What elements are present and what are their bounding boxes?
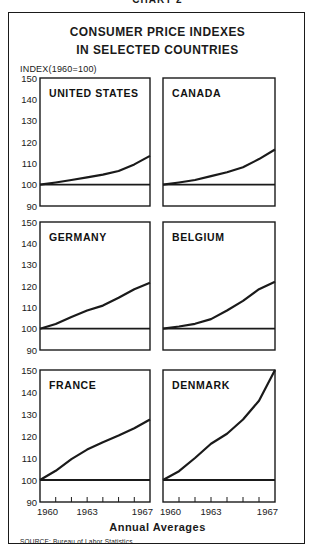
y-tick-label: 100 xyxy=(21,323,37,334)
y-tick-label: 90 xyxy=(26,497,37,508)
y-tick-label: 100 xyxy=(21,475,37,486)
y-tick-label: 140 xyxy=(21,387,37,398)
y-tick-label: 100 xyxy=(21,179,37,190)
cpi-line xyxy=(40,156,150,185)
y-tick-label: 130 xyxy=(21,409,37,420)
y-tick-label: 90 xyxy=(26,345,37,356)
cpi-line xyxy=(163,282,275,329)
y-tick-label: 150 xyxy=(21,217,37,228)
x-tick-label: 1960 xyxy=(160,506,181,517)
y-tick-label: 150 xyxy=(21,365,37,376)
y-tick-label: 110 xyxy=(22,158,37,169)
y-tick-label: 110 xyxy=(22,302,37,313)
panel-country-label: UNITED STATES xyxy=(49,87,139,99)
y-tick-label: 150 xyxy=(21,73,37,84)
panel-country-label: DENMARK xyxy=(172,379,230,391)
panel-denmark: DENMARK196019631967 xyxy=(160,370,278,517)
x-tick-label: 1967 xyxy=(132,506,153,517)
y-tick-label: 140 xyxy=(21,238,37,249)
cpi-line xyxy=(163,150,275,185)
x-tick-label: 1967 xyxy=(257,506,278,517)
panel-country-label: GERMANY xyxy=(49,231,107,243)
panel-belgium: BELGIUM xyxy=(163,222,275,350)
panel-country-label: BELGIUM xyxy=(172,231,225,243)
y-tick-label: 130 xyxy=(21,259,37,270)
y-tick-label: 110 xyxy=(22,453,37,464)
y-tick-label: 120 xyxy=(21,137,37,148)
small-multiples-plot-area: UNITED STATES90100110120130140150CANADAG… xyxy=(0,0,315,558)
y-tick-label: 90 xyxy=(26,201,37,212)
source-note: SOURCE: Bureau of Labor Statistics xyxy=(20,538,133,545)
panel-germany: GERMANY90100110120130140150 xyxy=(21,217,150,356)
cpi-line xyxy=(40,420,150,481)
x-tick-label: 1963 xyxy=(77,506,98,517)
panel-country-label: CANADA xyxy=(172,87,221,99)
panel-united-states: UNITED STATES90100110120130140150 xyxy=(21,73,150,212)
x-tick-label: 1963 xyxy=(200,506,221,517)
y-tick-label: 120 xyxy=(21,431,37,442)
cpi-line xyxy=(40,283,150,329)
y-tick-label: 120 xyxy=(21,281,37,292)
panel-france: FRANCE90100110120130140150196019631967 xyxy=(21,365,153,518)
y-tick-label: 140 xyxy=(21,94,37,105)
x-tick-label: 1960 xyxy=(37,506,58,517)
panel-country-label: FRANCE xyxy=(49,379,96,391)
y-tick-label: 130 xyxy=(21,115,37,126)
x-axis-label: Annual Averages xyxy=(0,521,315,533)
panel-canada: CANADA xyxy=(163,78,275,206)
